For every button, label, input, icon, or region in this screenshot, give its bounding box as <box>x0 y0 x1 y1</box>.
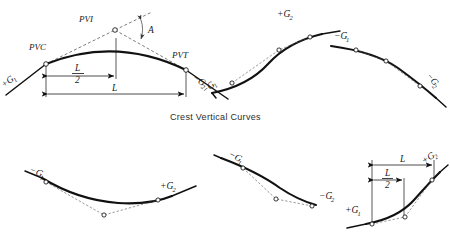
pvt-label: PVT <box>171 50 189 60</box>
rising-node-3 <box>308 35 312 39</box>
br-rising-node-3 <box>430 178 434 182</box>
br-falling-grade-out-subscript: 2 <box>331 196 335 203</box>
rising-node-1 <box>230 81 234 85</box>
falling-curve-path <box>331 46 436 98</box>
br-falling-node-1 <box>241 166 245 170</box>
pvi-prolongation-line <box>115 12 152 30</box>
br-rising-node-2 <box>403 215 407 219</box>
br-full-length-label: L <box>399 154 405 164</box>
diagram-canvas: PVI PVC PVT A +G 1 −G 2 L 2 L <box>0 0 450 234</box>
panel-crest-main: PVI PVC PVT A +G 1 −G 2 L 2 L <box>0 12 228 99</box>
br-rising-node-1 <box>370 222 374 226</box>
br-falling-node-2 <box>274 197 278 201</box>
br-falling-node-3 <box>310 204 314 208</box>
sag-left-node-3 <box>156 198 160 202</box>
br-rising-grade-in-group: +G 1 <box>345 205 361 217</box>
sag-left-grade-out-subscript: 2 <box>173 186 177 193</box>
br-rising-head <box>440 165 448 172</box>
br-falling-tail <box>214 155 221 158</box>
br-half-length-denominator: 2 <box>385 180 390 190</box>
rising-curve-path <box>212 34 322 93</box>
half-length-denominator: 2 <box>75 75 80 85</box>
br-rising-tail <box>347 224 366 228</box>
pvt-point-marker <box>184 68 189 73</box>
falling-grade-in-subscript: 1 <box>346 36 349 43</box>
falling-grade-out-group: −G 2 <box>423 71 442 91</box>
br-falling-grade-out-group: −G 2 <box>319 191 335 203</box>
falling-node-2 <box>384 59 388 63</box>
vertical-curves-figure: PVI PVC PVT A +G 1 −G 2 L 2 L <box>0 0 450 234</box>
br-rising-grade-in-subscript: 1 <box>358 210 361 217</box>
rising-grade-out-group: +G 2 <box>277 9 294 21</box>
rising-curve-tail <box>212 93 216 98</box>
rising-grade-out-subscript: 2 <box>290 14 294 21</box>
br-rising-chords <box>372 180 432 224</box>
br-rising-grade-in-label: +G <box>345 205 358 215</box>
rising-node-2 <box>277 48 281 52</box>
falling-node-3 <box>418 84 422 88</box>
half-length-numerator: L <box>74 63 80 73</box>
br-rising-grade-out-group: +G 2 <box>420 148 440 167</box>
full-length-label: L <box>111 83 117 93</box>
sag-left-chords <box>46 182 158 215</box>
sag-left-node-1 <box>44 180 48 184</box>
pvc-label: PVC <box>28 42 47 52</box>
deflection-angle-arc <box>141 20 143 39</box>
panel-sag-right-pair: −G 1 −G 2 +G 1 +G 2 L L <box>214 148 448 228</box>
pvi-label: PVI <box>78 14 94 24</box>
falling-curve-chords <box>356 50 420 86</box>
br-falling-curve-path <box>221 158 316 205</box>
falling-grade-in-group: −G 1 <box>334 31 349 43</box>
back-tangent-extension <box>46 30 115 64</box>
rising-grade-out-label: +G <box>277 9 290 19</box>
sag-left-grade-out-label: +G <box>160 181 173 191</box>
falling-curve-tail <box>436 98 446 107</box>
falling-node-1 <box>354 48 358 52</box>
sag-left-grade-out-group: +G 2 <box>160 181 177 193</box>
panel-sag-left: −G 1 +G 2 <box>25 165 196 218</box>
br-half-length-numerator: L <box>384 168 390 178</box>
pvi-point-marker <box>113 28 118 33</box>
panel-sag-to-crest-pair: −G 1 +G 2 −G 1 −G 2 <box>200 9 446 107</box>
sag-left-node-2 <box>102 213 106 217</box>
angle-a-label: A <box>147 25 154 35</box>
pvc-point-marker <box>44 62 49 67</box>
figure-caption: Crest Vertical Curves <box>170 112 261 122</box>
